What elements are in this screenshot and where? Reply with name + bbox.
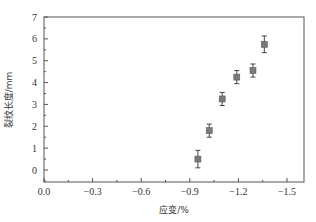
y-tick-label: 2 <box>32 121 37 132</box>
square-marker-icon <box>234 74 240 80</box>
data-point <box>219 92 225 105</box>
y-tick-label: 1 <box>32 143 37 154</box>
data-point <box>250 64 256 77</box>
x-axis-title: 应变/% <box>159 204 189 215</box>
y-tick-label: 3 <box>32 99 37 110</box>
x-tick-label: −0.9 <box>181 186 199 197</box>
data-point <box>261 36 267 53</box>
square-marker-icon <box>206 128 212 134</box>
y-axis-ticks: 01234567 <box>32 12 48 181</box>
x-axis-ticks: 0.0−0.3−0.6−0.9−1.2−1.5 <box>38 178 296 197</box>
y-tick-label: 5 <box>32 55 37 66</box>
square-marker-icon <box>261 41 267 47</box>
x-tick-label: −1.2 <box>229 186 247 197</box>
y-axis-title: 裂纹长度/mm <box>3 72 14 129</box>
y-tick-label: 4 <box>32 77 37 88</box>
y-tick-label: 7 <box>32 12 37 23</box>
data-points <box>195 36 267 168</box>
y-tick-label: 0 <box>32 165 37 176</box>
data-point <box>195 150 201 167</box>
x-tick-label: −1.5 <box>278 186 296 197</box>
y-tick-label: 6 <box>32 33 37 44</box>
data-point <box>234 71 240 84</box>
crack-length-vs-strain-chart: 0.0−0.3−0.6−0.9−1.2−1.5 01234567 应变/% 裂纹… <box>0 0 316 222</box>
square-marker-icon <box>195 156 201 162</box>
square-marker-icon <box>219 96 225 102</box>
data-point <box>206 124 212 137</box>
x-tick-label: −0.3 <box>84 186 102 197</box>
x-tick-label: −0.6 <box>132 186 150 197</box>
square-marker-icon <box>250 68 256 74</box>
x-tick-label: 0.0 <box>38 186 51 197</box>
